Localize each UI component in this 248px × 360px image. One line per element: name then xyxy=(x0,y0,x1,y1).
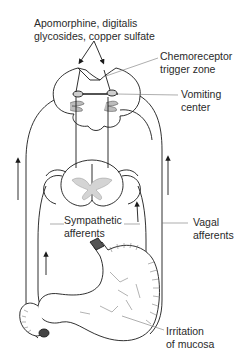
spinal-cord xyxy=(44,160,141,206)
label-ctz-line1: Chemoreceptor xyxy=(160,50,232,63)
label-vomiting-line2: center xyxy=(181,101,221,114)
label-vomiting-line1: Vomiting xyxy=(181,88,221,101)
label-mucosa-line1: Irritation xyxy=(166,325,214,338)
label-vagal-line2: afferents xyxy=(193,229,234,242)
label-vomiting-center: Vomiting center xyxy=(181,88,221,113)
brainstem xyxy=(53,68,140,131)
emesis-diagram: Apomorphine, digitalis glycosides, coppe… xyxy=(0,0,248,360)
descending-tracts xyxy=(76,97,108,168)
label-vagal-afferents: Vagal afferents xyxy=(193,216,234,241)
label-stimulus: Apomorphine, digitalis glycosides, coppe… xyxy=(34,17,155,42)
stimulus-arrows xyxy=(80,41,103,62)
label-vagal-line1: Vagal xyxy=(193,216,234,229)
label-sympathetic-line1: Sympathetic xyxy=(64,214,122,227)
label-stimulus-line1: Apomorphine, digitalis xyxy=(34,17,155,30)
stomach xyxy=(38,238,160,341)
label-stimulus-line2: glycosides, copper sulfate xyxy=(34,30,155,43)
label-sympathetic-afferents: Sympathetic afferents xyxy=(64,214,122,239)
label-ctz-line2: trigger zone xyxy=(160,63,232,76)
label-chemoreceptor-trigger-zone: Chemoreceptor trigger zone xyxy=(160,50,232,75)
label-sympathetic-line2: afferents xyxy=(64,227,122,240)
label-irritation-of-mucosa: Irritation of mucosa xyxy=(166,325,214,350)
label-mucosa-line2: of mucosa xyxy=(166,338,214,351)
